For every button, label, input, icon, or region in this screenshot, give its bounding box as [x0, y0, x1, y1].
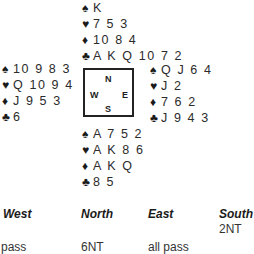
heart-icon: ♥: [82, 142, 93, 158]
east-spades-cards: Q J 6 4: [161, 62, 213, 78]
west-spades-cards: 10 9 8 3: [13, 61, 71, 77]
spade-icon: ♠: [2, 61, 13, 77]
west-hand: ♠ 10 9 8 3 ♥ Q 10 9 4 ♦ J 9 5 3 ♣ 6: [2, 61, 74, 125]
south-diamonds: ♦ A K Q: [82, 158, 145, 174]
south-diamonds-cards: A K Q: [93, 158, 134, 174]
auction-header-west: West: [3, 207, 31, 221]
east-hearts-cards: J 2: [161, 78, 182, 94]
north-hand: ♠ K ♥ 7 5 3 ♦ 10 8 4 ♣ A K Q 10 7 2: [82, 0, 183, 64]
club-icon: ♣: [82, 48, 93, 64]
west-spades: ♠ 10 9 8 3: [2, 61, 74, 77]
heart-icon: ♥: [150, 78, 161, 94]
north-spades: ♠ K: [82, 0, 183, 16]
east-clubs-cards: J 9 4 3: [161, 110, 210, 126]
auction-call-west-2: pass: [1, 240, 26, 254]
east-spades: ♠ Q J 6 4: [150, 62, 213, 78]
west-diamonds: ♦ J 9 5 3: [2, 93, 74, 109]
compass-north-label: N: [105, 75, 112, 84]
west-diamonds-cards: J 9 5 3: [13, 93, 62, 109]
north-hearts-cards: 7 5 3: [93, 16, 129, 32]
south-hearts-cards: A K 8 6: [93, 142, 145, 158]
heart-icon: ♥: [2, 77, 13, 93]
west-clubs: ♣ 6: [2, 109, 74, 125]
spade-icon: ♠: [82, 126, 93, 142]
west-clubs-cards: 6: [13, 109, 22, 125]
south-clubs: ♣ 8 5: [82, 174, 145, 190]
north-spades-cards: K: [93, 0, 103, 16]
north-diamonds: ♦ 10 8 4: [82, 32, 183, 48]
west-hearts: ♥ Q 10 9 4: [2, 77, 74, 93]
auction-header-south: South: [219, 207, 253, 221]
auction-call-north-2: 6NT: [81, 240, 104, 254]
south-spades: ♠ A 7 5 2: [82, 126, 145, 142]
compass-box: N W E S: [83, 68, 134, 117]
south-spades-cards: A 7 5 2: [93, 126, 143, 142]
north-hearts: ♥ 7 5 3: [82, 16, 183, 32]
west-hearts-cards: Q 10 9 4: [13, 77, 74, 93]
spade-icon: ♠: [150, 62, 161, 78]
auction-call-south-1: 2NT: [219, 222, 242, 236]
south-hearts: ♥ A K 8 6: [82, 142, 145, 158]
north-diamonds-cards: 10 8 4: [93, 32, 137, 48]
compass-west-label: W: [90, 91, 99, 100]
compass-east-label: E: [122, 91, 128, 100]
east-hearts: ♥ J 2: [150, 78, 213, 94]
east-diamonds-cards: 7 6 2: [161, 94, 197, 110]
auction-header-north: North: [81, 207, 113, 221]
diamond-icon: ♦: [150, 94, 161, 110]
auction-call-east-2: all pass: [148, 240, 189, 254]
east-diamonds: ♦ 7 6 2: [150, 94, 213, 110]
spade-icon: ♠: [82, 0, 93, 16]
diamond-icon: ♦: [2, 93, 13, 109]
auction-header-east: East: [148, 207, 173, 221]
club-icon: ♣: [150, 110, 161, 126]
south-clubs-cards: 8 5: [93, 174, 115, 190]
east-hand: ♠ Q J 6 4 ♥ J 2 ♦ 7 6 2 ♣ J 9 4 3: [150, 62, 213, 126]
club-icon: ♣: [82, 174, 93, 190]
heart-icon: ♥: [82, 16, 93, 32]
east-clubs: ♣ J 9 4 3: [150, 110, 213, 126]
club-icon: ♣: [2, 109, 13, 125]
south-hand: ♠ A 7 5 2 ♥ A K 8 6 ♦ A K Q ♣ 8 5: [82, 126, 145, 190]
diamond-icon: ♦: [82, 32, 93, 48]
diamond-icon: ♦: [82, 158, 93, 174]
compass-south-label: S: [105, 105, 111, 114]
